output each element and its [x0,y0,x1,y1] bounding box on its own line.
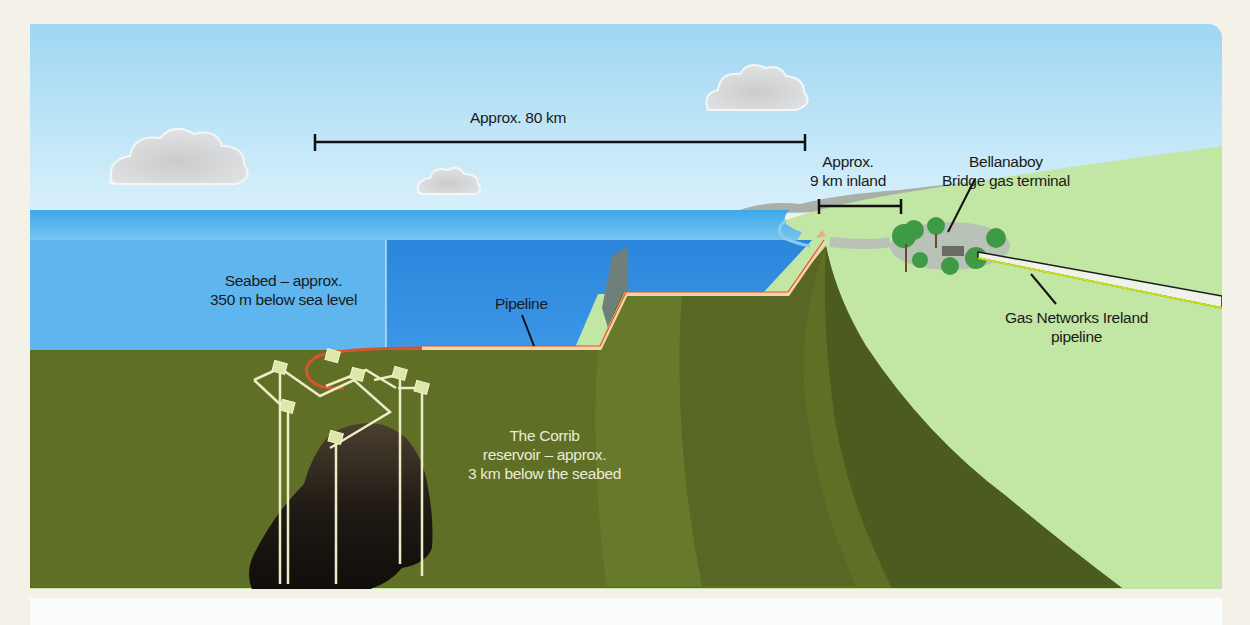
label-gni-pipeline: Gas Networks Ireland pipeline [1005,308,1148,346]
label-inland-distance: Approx. 9 km inland [810,152,886,190]
label-seabed-depth: Seabed – approx. 350 m below sea level [210,271,357,309]
gas-terminal-building [942,246,964,256]
label-offshore-distance: Approx. 80 km [470,108,566,127]
label-pipeline: Pipeline [495,294,548,313]
land-road [830,242,890,244]
cross-section-illustration [30,24,1222,589]
caption-strip [30,598,1222,625]
label-gas-terminal: Bellanaboy Bridge gas terminal [942,152,1070,190]
label-corrib-reservoir: The Corrib reservoir – approx. 3 km belo… [468,426,621,483]
diagram-panel: Approx. 80 km Approx. 9 km inland Bellan… [30,24,1222,589]
sea-surface [30,210,802,242]
